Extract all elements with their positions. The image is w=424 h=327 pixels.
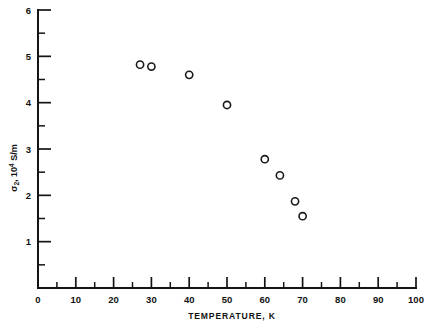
data-point xyxy=(291,198,298,205)
y-tick-label: 3 xyxy=(26,144,31,155)
data-point xyxy=(186,71,193,78)
data-point xyxy=(148,63,155,70)
x-axis-tick-labels: 0102030405060708090100 xyxy=(35,294,424,305)
data-point xyxy=(223,101,230,108)
data-point-markers xyxy=(136,61,306,220)
y-axis-title: σ2, 104 S/m xyxy=(8,144,21,192)
x-tick-label: 60 xyxy=(260,294,271,305)
data-point xyxy=(136,61,143,68)
y-tick-label: 6 xyxy=(26,5,31,16)
chart-figure: 123456 0102030405060708090100 TEMPERATUR… xyxy=(0,0,424,327)
x-tick-label: 80 xyxy=(335,294,346,305)
x-tick-label: 20 xyxy=(108,294,119,305)
axis-lines xyxy=(38,10,416,288)
y-axis-ticks xyxy=(38,10,51,265)
x-tick-label: 50 xyxy=(222,294,233,305)
x-tick-label: 100 xyxy=(408,294,424,305)
x-axis-ticks xyxy=(57,277,416,288)
x-tick-label: 10 xyxy=(71,294,82,305)
x-tick-label: 70 xyxy=(297,294,308,305)
x-axis-title: TEMPERATURE, K xyxy=(188,311,276,321)
y-tick-label: 2 xyxy=(26,190,31,201)
x-tick-label: 90 xyxy=(373,294,384,305)
data-point xyxy=(276,172,283,179)
y-axis-title-unit: S/m xyxy=(9,144,19,163)
scatter-plot: 123456 0102030405060708090100 TEMPERATUR… xyxy=(0,0,424,327)
data-point xyxy=(261,156,268,163)
y-axis-tick-labels: 123456 xyxy=(26,5,32,248)
y-tick-label: 5 xyxy=(26,51,32,62)
x-tick-label: 30 xyxy=(146,294,157,305)
y-axis-title-separator: , 10 xyxy=(9,167,19,182)
x-tick-label: 0 xyxy=(35,294,40,305)
y-tick-label: 4 xyxy=(26,97,32,108)
data-point xyxy=(299,213,306,220)
y-tick-label: 1 xyxy=(26,236,32,247)
x-tick-label: 40 xyxy=(184,294,195,305)
